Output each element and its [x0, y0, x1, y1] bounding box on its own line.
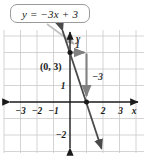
coordinate-plane: −3 −2 −1 2 3 1 −2 x y (0, 3) 1 −3 [0, 0, 148, 161]
grid-lines [4, 30, 144, 153]
x-axis-name: x [131, 106, 137, 116]
rise-label: −3 [92, 71, 103, 82]
equation-label: y = −3x + 3 [22, 8, 78, 20]
y-tick-label-neg2: −2 [56, 130, 67, 140]
run-label: 1 [75, 39, 80, 50]
y-tick-label-1: 1 [61, 81, 66, 91]
graphed-line [63, 31, 102, 149]
x-tick-label-neg2: −2 [32, 106, 43, 116]
axis-lines [10, 32, 138, 148]
x-tick-label-neg1: −1 [48, 106, 59, 116]
point-y-intercept [68, 50, 73, 55]
point-x-intercept [84, 100, 89, 105]
figure-container: y = −3x + 3 [0, 0, 148, 161]
x-tick-label-3: 3 [117, 106, 123, 116]
x-tick-label-neg3: −3 [15, 106, 26, 116]
equation-callout-box: y = −3x + 3 [10, 4, 90, 23]
x-tick-label-2: 2 [100, 106, 106, 116]
y-intercept-label: (0, 3) [40, 61, 62, 73]
